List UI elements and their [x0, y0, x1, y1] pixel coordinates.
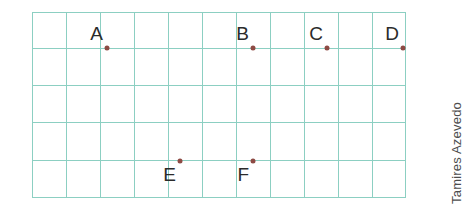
grid-line-vertical — [270, 12, 271, 198]
grid-line-vertical — [405, 12, 406, 198]
point-marker-e — [178, 159, 183, 164]
grid-area — [32, 12, 406, 198]
grid-line-horizontal — [32, 160, 406, 161]
point-label-d: D — [385, 24, 399, 43]
grid-line-vertical — [304, 12, 305, 198]
watermark-credit: Tamires Azevedo — [449, 102, 464, 204]
point-label-e: E — [163, 165, 176, 184]
point-marker-b — [251, 46, 256, 51]
point-marker-f — [251, 159, 256, 164]
grid-line-horizontal — [32, 48, 406, 49]
grid-line-vertical — [202, 12, 203, 198]
grid-line-vertical — [372, 12, 373, 198]
point-label-b: B — [236, 24, 249, 43]
grid-line-horizontal — [32, 122, 406, 123]
grid-line-vertical — [338, 12, 339, 198]
grid-line-horizontal — [32, 85, 406, 86]
point-label-c: C — [309, 24, 323, 43]
figure-canvas: A B C D E F Tamires Azevedo — [0, 0, 470, 212]
grid-line-vertical — [134, 12, 135, 198]
point-marker-a — [105, 46, 110, 51]
point-label-a: A — [90, 24, 103, 43]
point-label-f: F — [237, 165, 249, 184]
point-marker-c — [325, 46, 330, 51]
grid-line-horizontal — [32, 12, 406, 13]
grid-line-horizontal — [32, 197, 406, 198]
point-marker-d — [401, 46, 406, 51]
grid-line-vertical — [66, 12, 67, 198]
grid-line-vertical — [32, 12, 33, 198]
